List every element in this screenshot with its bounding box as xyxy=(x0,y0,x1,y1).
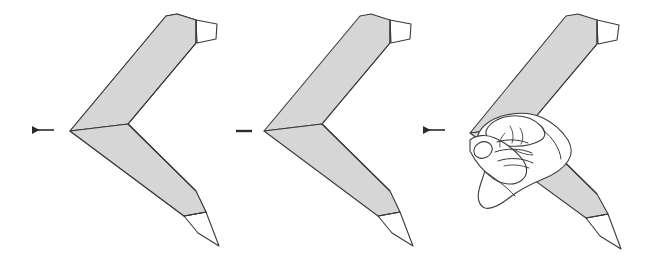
diagram-canvas xyxy=(0,0,652,268)
panel-1-top-flap xyxy=(196,20,217,43)
origami-sequence-illustration xyxy=(0,0,652,268)
panel-2-top-flap xyxy=(390,20,411,43)
